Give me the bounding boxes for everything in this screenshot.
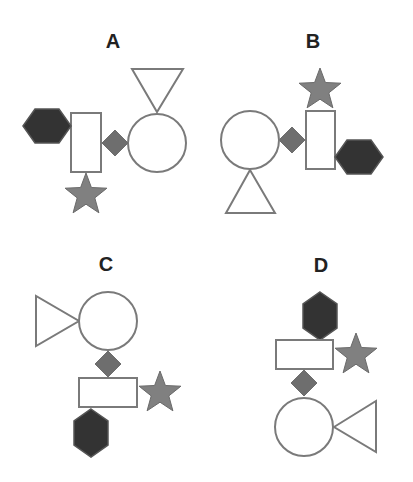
option-c[interactable]: C	[36, 253, 181, 457]
rectangle-shape	[276, 340, 333, 369]
hexagon-shape	[74, 409, 108, 457]
diamond-shape	[95, 351, 121, 377]
option-a[interactable]: A	[23, 30, 186, 213]
option-b[interactable]: B	[221, 30, 383, 213]
option-label: C	[99, 253, 113, 275]
puzzle-diagram: ABCD	[0, 0, 413, 482]
circle-shape	[128, 114, 186, 172]
triangle-shape	[226, 170, 275, 213]
diamond-shape	[279, 127, 305, 153]
hexagon-shape	[303, 292, 337, 340]
option-d[interactable]: D	[275, 254, 377, 456]
rectangle-shape	[71, 113, 101, 172]
star-shape	[139, 371, 181, 411]
option-label: D	[314, 254, 328, 276]
rectangle-shape	[306, 111, 335, 169]
hexagon-shape	[335, 140, 383, 174]
option-label: A	[106, 30, 120, 52]
star-shape	[65, 173, 107, 213]
circle-shape	[79, 292, 137, 350]
rectangle-shape	[79, 378, 137, 407]
triangle-shape	[334, 401, 376, 452]
star-shape	[335, 333, 377, 373]
option-label: B	[306, 30, 320, 52]
triangle-shape	[36, 296, 79, 346]
circle-shape	[275, 398, 333, 456]
hexagon-shape	[23, 109, 71, 143]
diamond-shape	[291, 370, 317, 396]
circle-shape	[221, 111, 279, 169]
diamond-shape	[102, 130, 128, 156]
triangle-shape	[132, 69, 183, 112]
star-shape	[299, 68, 341, 108]
